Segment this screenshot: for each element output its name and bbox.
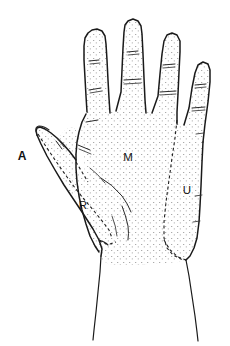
zone-label-radial: R (79, 199, 87, 211)
hand-diagram-canvas: A R M U (0, 0, 230, 346)
zone-label-ulnar: U (183, 184, 191, 196)
zone-label-axillary: A (18, 149, 27, 163)
figure-root: A R M U (0, 0, 230, 346)
zone-label-median: M (123, 151, 133, 163)
